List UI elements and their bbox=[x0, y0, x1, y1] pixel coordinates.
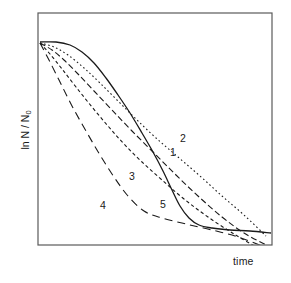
x-axis-label: time bbox=[233, 255, 254, 267]
curve-label-1: 1 bbox=[170, 147, 176, 158]
curve-label-3: 3 bbox=[129, 171, 135, 182]
y-axis-label: ln N / N0 bbox=[15, 95, 31, 165]
chart-figure: ln N / N0 time 12345 bbox=[0, 0, 291, 283]
y-axis-label-subscript: 0 bbox=[24, 110, 33, 114]
y-axis-label-text: ln N / N bbox=[19, 115, 31, 150]
curve-label-5: 5 bbox=[160, 199, 166, 210]
plot-area bbox=[0, 0, 291, 283]
curve-label-2: 2 bbox=[180, 133, 186, 144]
plot-frame bbox=[38, 13, 272, 245]
curve-label-4: 4 bbox=[100, 200, 106, 211]
